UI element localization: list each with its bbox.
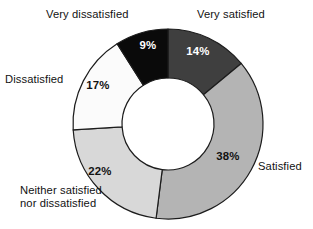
percent-label-dissatisfied: 17% [86,79,109,91]
category-label-satisfied: Satisfied [258,160,302,173]
percent-label-neither-satisfied-nor-dissatisfied: 22% [88,165,111,177]
category-label-very-dissatisfied: Very dissatisfied [46,8,129,21]
category-label-dissatisfied: Dissatisfied [5,73,63,86]
category-label-very-satisfied: Very satisfied [197,8,265,21]
percent-label-very-dissatisfied: 9% [140,39,157,51]
percent-label-very-satisfied: 14% [186,45,209,57]
percent-label-satisfied: 38% [216,150,239,162]
donut-chart-figure: 14%38%22%17%9% Very dissatisfied Very sa… [0,0,313,229]
category-label-neither-satisfied-nor-dissatisfied: Neither satisfied nor dissatisfied [20,184,112,211]
